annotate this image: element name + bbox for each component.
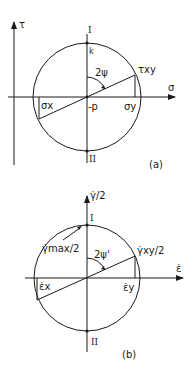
gamma-axis-label: γ̇/2 — [90, 190, 106, 201]
epsilon-axis-label: ε̇ — [176, 263, 181, 274]
eps-y-label: ε̇y — [123, 282, 134, 293]
eps-x-label: ε̇x — [39, 281, 50, 292]
gamma-max-label: γ̇max/2 — [42, 243, 79, 254]
point-ii-dot — [85, 149, 88, 152]
caption-b: (b) — [122, 349, 136, 360]
stress-mohr-circle-diagram: τ σ I II k 2ψ τxy σx σy -p (a) — [8, 19, 175, 170]
sigma-axis-label: σ — [168, 82, 175, 93]
center-dot — [86, 96, 89, 99]
caption-a: (a) — [149, 159, 163, 170]
gamma-xy-label: γ̇xy/2 — [137, 245, 165, 256]
sigma-x-label: σx — [41, 100, 53, 111]
strain-pole-ii-label: II — [91, 337, 99, 347]
pole-ii-label: II — [89, 154, 97, 164]
tau-xy-label: τxy — [138, 64, 156, 75]
strain-point-i-dot — [85, 223, 88, 226]
center-p-label: -p — [88, 101, 98, 112]
point-i-dot — [85, 41, 88, 44]
mohr-circle-figure: τ σ I II k 2ψ τxy σx σy -p (a) γ̇/2 ε̇ I… — [0, 0, 193, 380]
angle-2psi-prime-label: 2ψ' — [94, 249, 110, 260]
tau-axis-label: τ — [19, 19, 25, 30]
strain-point-ii-dot — [85, 329, 88, 332]
strain-pole-i-label: I — [90, 213, 94, 223]
sigma-y-label: σy — [124, 101, 136, 112]
angle-2psi-label: 2ψ — [95, 67, 108, 78]
pole-i-label: I — [88, 25, 92, 35]
k-label: k — [89, 47, 94, 56]
strain-rate-mohr-circle-diagram: γ̇/2 ε̇ I II γ̇max/2 2ψ' γ̇xy/2 ε̇x ε̇y … — [25, 190, 183, 360]
